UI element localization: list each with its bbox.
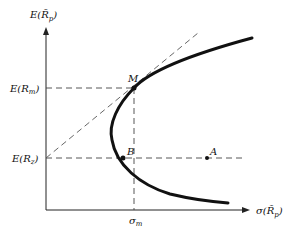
y-axis-label: E(R̃p)	[29, 9, 57, 23]
frontier-diagram: E(R̃p) σ(R̃p) E(Rm) E(Rz) σm M B A	[0, 0, 289, 234]
frontier-curve	[111, 38, 252, 203]
erz-label: E(Rz)	[11, 153, 38, 166]
tangent-line	[46, 33, 198, 158]
label-m: M	[127, 73, 139, 84]
point-a	[205, 156, 209, 160]
label-b: B	[126, 146, 134, 157]
label-a: A	[209, 146, 217, 157]
erm-label: E(Rm)	[9, 83, 39, 96]
y-axis-arrow-icon	[43, 27, 49, 35]
x-axis-label: σ(R̃p)	[256, 205, 283, 219]
point-m	[132, 86, 137, 91]
x-axis-arrow-icon	[242, 207, 250, 213]
point-b	[121, 156, 126, 161]
sigma-m-label: σm	[129, 215, 143, 228]
